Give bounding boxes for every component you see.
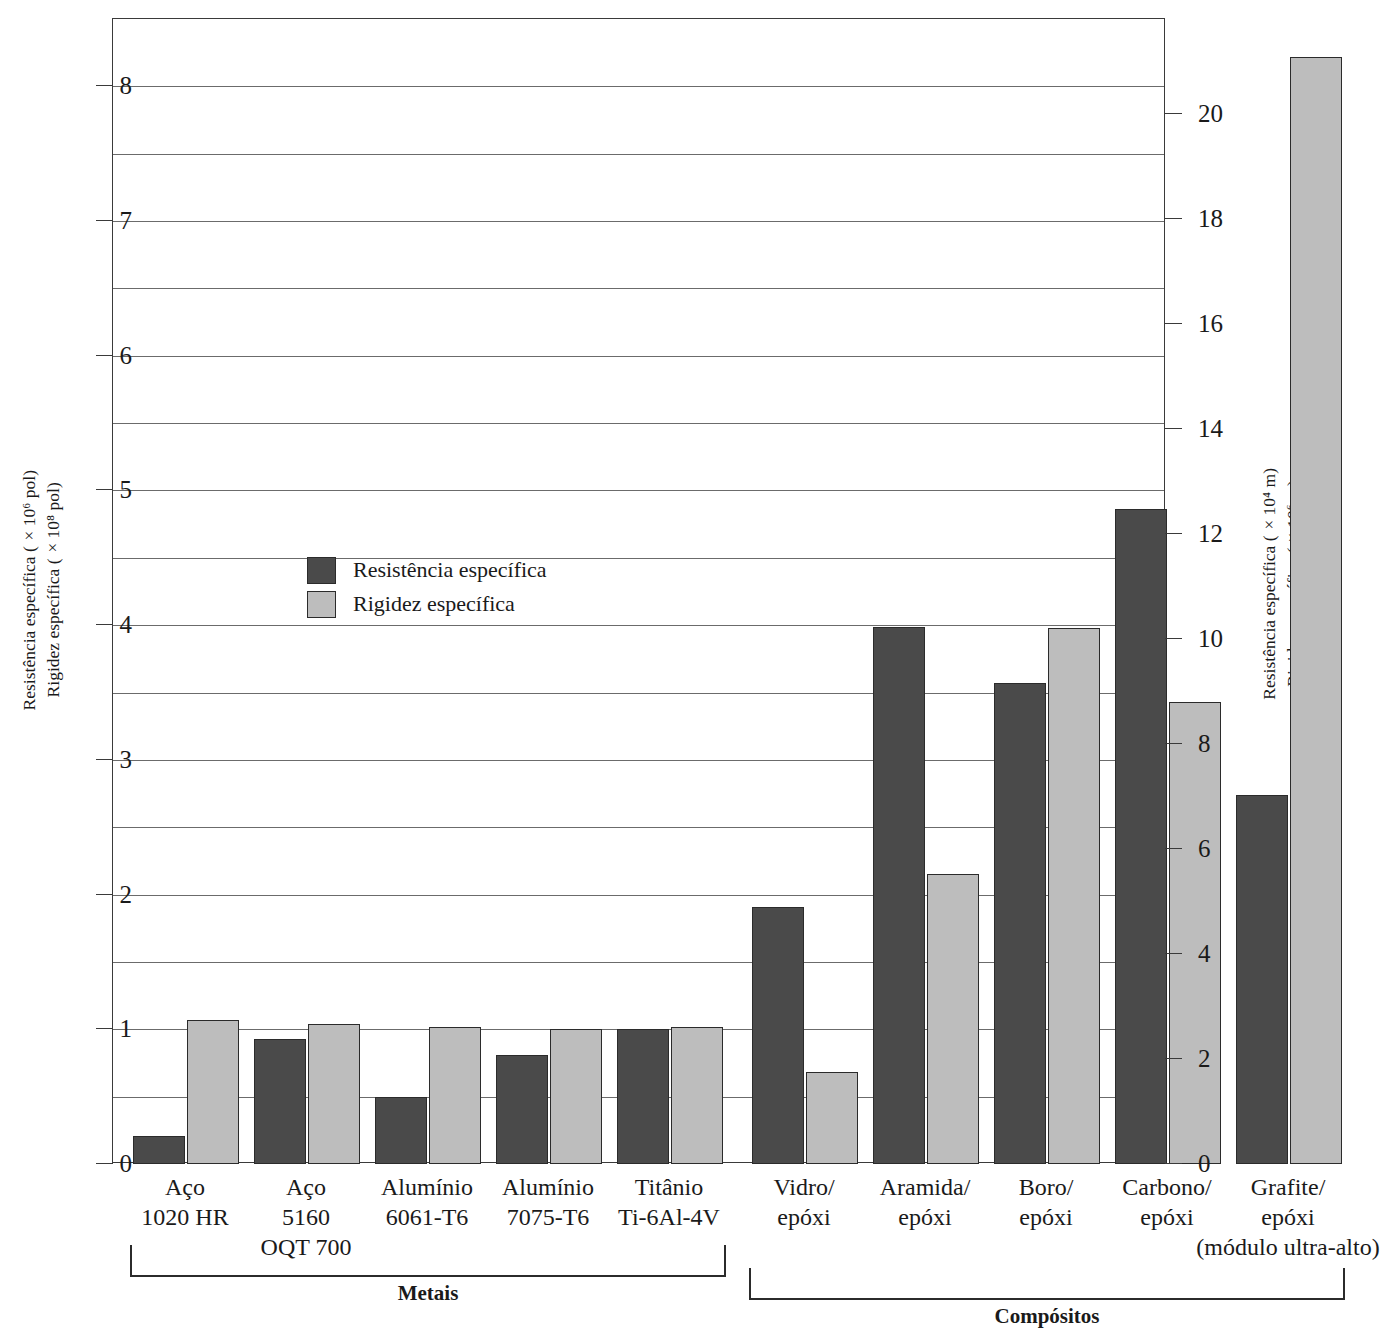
category-label-line: epóxi xyxy=(1158,1202,1384,1232)
bar-stiffness xyxy=(187,1020,239,1164)
category-label: Grafite/epóxi(módulo ultra-alto) xyxy=(1158,1172,1384,1262)
group-bracket-label: Compósitos xyxy=(897,1304,1197,1329)
right-tick-mark xyxy=(1165,218,1182,219)
bar-strength xyxy=(133,1136,185,1164)
group-bracket xyxy=(749,1268,1345,1300)
right-tick-label: 16 xyxy=(1198,310,1258,335)
right-tick-label: 12 xyxy=(1198,520,1258,545)
bar-strength xyxy=(254,1039,306,1164)
bar-strength xyxy=(994,683,1046,1164)
right-tick-mark xyxy=(1165,638,1182,639)
right-tick-mark xyxy=(1165,533,1182,534)
left-tick-label: 6 xyxy=(90,342,132,367)
bar-strength xyxy=(873,627,925,1164)
chart-legend: Resistência específicaRigidez específica xyxy=(307,556,547,624)
right-tick-label: 14 xyxy=(1198,415,1258,440)
right-tick-mark xyxy=(1165,428,1182,429)
right-tick-label: 18 xyxy=(1198,205,1258,230)
right-tick-label: 2 xyxy=(1198,1045,1258,1070)
left-axis-title: Resistência específica (×10⁶ pol) Rigide… xyxy=(18,470,65,710)
bar-stiffness xyxy=(806,1072,858,1164)
right-axis-title-line1: Resistência específica (×10⁴ m) xyxy=(1259,468,1279,700)
right-tick-mark xyxy=(1165,953,1182,954)
right-tick-label: 8 xyxy=(1198,730,1258,755)
group-bracket xyxy=(130,1245,726,1277)
legend-label: Resistência específica xyxy=(353,556,547,584)
category-label-line: Grafite/ xyxy=(1158,1172,1384,1202)
bar-stiffness xyxy=(1169,702,1221,1164)
legend-item: Rigidez específica xyxy=(307,590,547,618)
group-bracket-label: Metais xyxy=(278,1281,578,1306)
right-tick-mark xyxy=(1165,743,1182,744)
bar-strength xyxy=(1115,509,1167,1164)
legend-label: Rigidez específica xyxy=(353,590,515,618)
bar-strength xyxy=(617,1029,669,1164)
bar-stiffness xyxy=(1048,628,1100,1164)
bar-stiffness xyxy=(429,1027,481,1164)
bar-stiffness xyxy=(308,1024,360,1164)
left-tick-label: 7 xyxy=(90,208,132,233)
bar-strength xyxy=(752,907,804,1164)
left-tick-label: 3 xyxy=(90,746,132,771)
left-tick-label: 4 xyxy=(90,612,132,637)
right-tick-mark xyxy=(1165,113,1182,114)
right-tick-label: 20 xyxy=(1198,100,1258,125)
category-label-line: (módulo ultra-alto) xyxy=(1158,1232,1384,1262)
left-axis-title-line2: Rigidez específica (×10⁸ pol) xyxy=(42,470,66,710)
right-tick-label: 6 xyxy=(1198,835,1258,860)
bar-strength xyxy=(375,1097,427,1164)
bar-stiffness xyxy=(927,874,979,1164)
legend-item: Resistência específica xyxy=(307,556,547,584)
right-tick-mark xyxy=(1165,1163,1182,1164)
bar-stiffness xyxy=(1290,57,1342,1164)
right-tick-label: 4 xyxy=(1198,940,1258,965)
left-tick-label: 8 xyxy=(90,73,132,98)
right-tick-mark xyxy=(1165,323,1182,324)
bar-strength xyxy=(496,1055,548,1164)
right-tick-label: 10 xyxy=(1198,625,1258,650)
legend-swatch-strength xyxy=(307,557,336,584)
bars-layer xyxy=(113,19,1166,1164)
right-tick-mark xyxy=(1165,1058,1182,1059)
left-tick-label: 1 xyxy=(90,1016,132,1041)
left-axis-title-line1: Resistência específica (×10⁶ pol) xyxy=(19,470,39,710)
bar-stiffness xyxy=(671,1027,723,1164)
right-tick-mark xyxy=(1165,848,1182,849)
left-tick-label: 2 xyxy=(90,881,132,906)
bar-stiffness xyxy=(550,1029,602,1164)
left-tick-label: 5 xyxy=(90,477,132,502)
legend-swatch-stiffness xyxy=(307,591,336,618)
plot-area xyxy=(112,18,1165,1163)
